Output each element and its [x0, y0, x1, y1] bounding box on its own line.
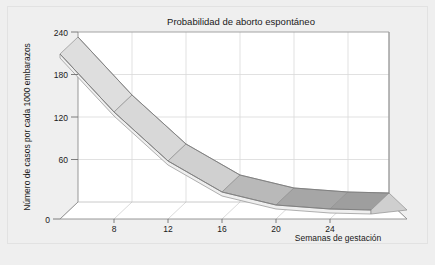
y-tick-label-0: 0 [45, 215, 50, 225]
chart-figure: 240 180 120 60 0 8 12 16 20 24 Probabili… [0, 0, 435, 265]
x-axis-title: Semanas de gestación [295, 233, 382, 243]
y-tick-label-60: 60 [59, 155, 69, 165]
x-tick-label-20: 20 [271, 224, 281, 234]
chart-title: Probabilidad de aborto espontáneo [167, 16, 315, 27]
y-axis-title: Número de casos por cada 1000 embarazos [22, 43, 32, 211]
x-tick-label-8: 8 [112, 224, 117, 234]
abortion-probability-3d-ribbon-chart: 240 180 120 60 0 8 12 16 20 24 Probabili… [8, 7, 427, 243]
y-tick-label-120: 120 [54, 113, 68, 123]
x-tick-label-16: 16 [217, 224, 227, 234]
x-tick-label-12: 12 [163, 224, 173, 234]
y-tick-label-180: 180 [54, 70, 68, 80]
x-axis-ticks [114, 219, 330, 223]
chart-panel: 240 180 120 60 0 8 12 16 20 24 Probabili… [7, 6, 428, 244]
y-tick-label-240: 240 [54, 28, 68, 38]
